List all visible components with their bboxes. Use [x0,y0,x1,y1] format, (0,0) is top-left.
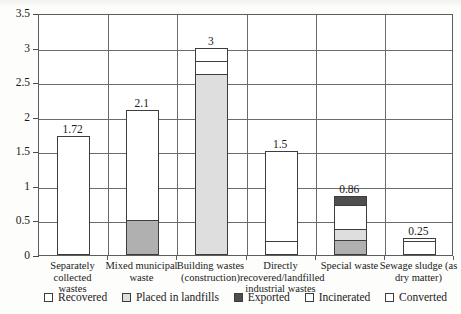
legend-label: Converted [399,291,447,303]
bar-segment-incinerated[interactable] [403,241,436,255]
x-axis-label-3: Building wastes(construction) [170,260,251,283]
gridline [39,119,452,120]
y-tick-label: 2 [0,112,30,124]
gridline [39,50,452,51]
legend-swatch-icon [44,293,53,302]
legend-label: Incinerated [319,291,371,303]
legend-swatch-icon [234,293,243,302]
legend-item-recovered[interactable]: Recovered [44,291,107,303]
bar-segment-placed-in-landfills[interactable] [334,240,367,255]
chart-legend: RecoveredPlaced in landfillsExportedInci… [38,288,453,306]
x-axis-label-6: Sewage sludge (asdry matter) [378,260,459,283]
scan-artifact [0,0,461,7]
bar-value-label: 0.25 [383,225,453,237]
gridline [39,222,452,223]
legend-item-placed-in-landfills[interactable]: Placed in landfills [122,291,219,303]
gridline [39,153,452,154]
y-tick-mark [33,256,39,257]
bar-segment-recovered[interactable] [57,136,90,255]
bar-segment-placed-in-landfills[interactable] [195,74,228,255]
legend-swatch-icon [122,293,131,302]
legend-item-exported[interactable]: Exported [234,291,290,303]
bar-value-label: 1.72 [38,123,108,135]
bar-2[interactable] [126,13,159,255]
bar-5[interactable] [334,13,367,255]
y-tick-label: 3 [0,43,30,55]
category-separator [177,15,178,255]
y-tick-label: 1.5 [0,146,30,158]
bar-value-label: 3 [176,35,246,47]
y-tick-label: 1 [0,181,30,193]
y-tick-label: 0 [0,250,30,262]
bar-segment-recovered[interactable] [403,238,436,241]
bar-segment-placed-in-landfills[interactable] [126,220,159,255]
category-separator [108,15,109,255]
gridline [39,188,452,189]
bar-3[interactable] [195,13,228,255]
bar-segment-exported[interactable] [334,196,367,206]
legend-label: Exported [248,291,290,303]
bar-4[interactable] [265,13,298,255]
legend-swatch-icon [305,293,314,302]
y-tick-label: 2.5 [0,77,30,89]
y-tick-label: 3.5 [0,8,30,20]
bar-value-label: 0.86 [314,183,384,195]
gridline [39,84,452,85]
bar-segment-converted[interactable] [195,61,228,73]
bar-segment-incinerated[interactable] [195,48,228,62]
bar-value-label: 2.1 [107,97,177,109]
bar-segment-recovered[interactable] [126,110,159,221]
legend-swatch-icon [385,293,394,302]
bar-segment-incinerated[interactable] [265,241,298,255]
y-tick-label: 0.5 [0,215,30,227]
legend-label: Recovered [58,291,107,303]
bar-segment-converted[interactable] [334,229,367,240]
category-separator [247,15,248,255]
legend-item-converted[interactable]: Converted [385,291,447,303]
legend-label: Placed in landfills [136,291,219,303]
bar-segment-recovered[interactable] [334,205,367,229]
legend-item-incinerated[interactable]: Incinerated [305,291,371,303]
category-separator [316,15,317,255]
category-separator [385,15,386,255]
bar-segment-recovered[interactable] [265,151,298,241]
bar-6[interactable] [403,13,436,255]
bar-value-label: 1.5 [245,138,315,150]
bar-chart: 3.532.521.510.50 Separately collectedwas… [0,0,461,314]
